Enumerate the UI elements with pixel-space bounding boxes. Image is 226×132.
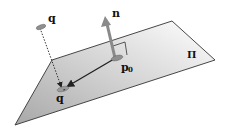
label-plane-pi: Π — [187, 49, 196, 60]
plane — [15, 21, 215, 125]
point-q — [36, 23, 47, 31]
plane-projection-diagram: q n p 0 q ′ Π — [0, 0, 226, 132]
label-p0-subscript: 0 — [128, 65, 133, 74]
diagram-canvas: q n p 0 q ′ Π — [0, 0, 226, 132]
label-n: n — [112, 7, 120, 20]
normal-arrow-head-icon — [101, 16, 111, 27]
label-q: q — [48, 12, 56, 25]
